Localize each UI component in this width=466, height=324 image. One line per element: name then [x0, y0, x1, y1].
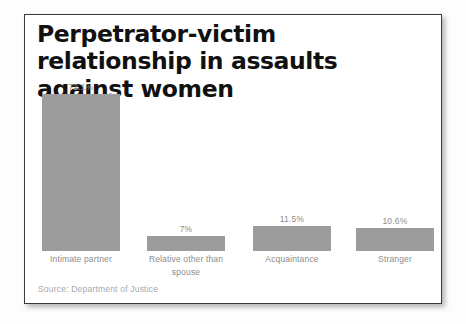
- bar-intimate-partner[interactable]: [42, 94, 120, 251]
- screenshot-page: Perpetrator-victim relationship in assau…: [0, 0, 466, 324]
- bar-value-label: 11.5%: [253, 214, 331, 224]
- category-axis-labels: Intimate partner Relative other than spo…: [25, 253, 443, 287]
- bar-column-relative-other-than-spouse: 7%: [147, 75, 225, 251]
- bar-wrapper: [147, 236, 225, 251]
- bar-column-intimate-partner: 72.1%: [42, 75, 120, 251]
- bar-value-label: 10.6%: [356, 216, 434, 226]
- chart-card-inner: Perpetrator-victim relationship in assau…: [25, 15, 441, 303]
- chart-card: Perpetrator-victim relationship in assau…: [24, 14, 442, 304]
- bar-stranger[interactable]: [356, 228, 434, 251]
- source-note: Source: Department of Justice: [38, 284, 158, 294]
- bar-value-label: 7%: [147, 224, 225, 234]
- bar-acquaintance[interactable]: [253, 226, 331, 251]
- bar-column-stranger: 10.6%: [356, 75, 434, 251]
- category-label-relative-other-than-spouse: Relative other than spouse: [143, 253, 229, 279]
- bar-value-label: 72.1%: [42, 82, 120, 92]
- bar-wrapper: [42, 94, 120, 251]
- bar-wrapper: [356, 228, 434, 251]
- bar-relative-other-than-spouse[interactable]: [147, 236, 225, 251]
- bar-chart-plot-area: 72.1% 7% 11.5%: [25, 75, 443, 251]
- category-label-intimate-partner: Intimate partner: [42, 253, 120, 266]
- bar-column-acquaintance: 11.5%: [253, 75, 331, 251]
- category-label-stranger: Stranger: [356, 253, 434, 266]
- bar-wrapper: [253, 226, 331, 251]
- category-label-acquaintance: Acquaintance: [253, 253, 331, 266]
